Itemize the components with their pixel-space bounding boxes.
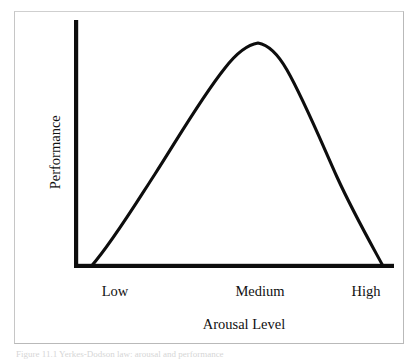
- figure-caption: Figure 11.1 Yerkes-Dodson law: arousal a…: [16, 349, 406, 359]
- x-tick-label-low: Low: [75, 284, 155, 299]
- x-tick-label-medium: Medium: [205, 284, 315, 299]
- figure-frame: Low Medium High Arousal Level Performanc…: [14, 11, 404, 344]
- x-axis-line: [74, 264, 394, 268]
- x-axis-title: Arousal Level: [144, 317, 344, 332]
- y-axis-title: Performance: [48, 72, 63, 232]
- performance-curve: [92, 43, 384, 266]
- chart-plot-area: Low Medium High Arousal Level Performanc…: [15, 12, 405, 345]
- x-tick-label-high: High: [326, 284, 406, 299]
- y-axis-line: [74, 20, 78, 268]
